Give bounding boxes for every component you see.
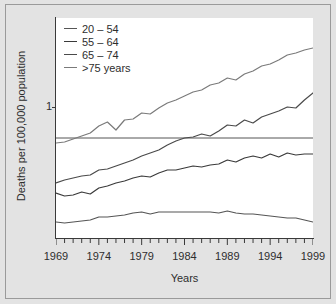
legend-line-icon [64, 28, 77, 29]
legend-label: 55 – 64 [82, 36, 119, 48]
x-tick-label: 1994 [250, 250, 290, 262]
x-axis-ticks [56, 238, 313, 246]
legend-item-20-54: 20 – 54 [64, 22, 131, 35]
legend-label: 20 – 54 [82, 23, 119, 35]
x-tick-label: 1984 [165, 250, 205, 262]
legend: 20 – 54 55 – 64 65 – 74 >75 years [64, 22, 131, 74]
x-axis-title: Years [56, 272, 313, 284]
x-tick-label: 1974 [79, 250, 119, 262]
legend-item-65-74: 65 – 74 [64, 48, 131, 61]
legend-line-icon [64, 41, 77, 42]
x-tick-label: 1999 [293, 250, 333, 262]
y-tick-mark [52, 107, 56, 108]
legend-item-55-64: 55 – 64 [64, 35, 131, 48]
legend-line-icon [64, 54, 77, 55]
x-tick-label: 1989 [207, 250, 247, 262]
legend-label: >75 years [82, 62, 131, 74]
legend-label: 65 – 74 [82, 49, 119, 61]
series-line [56, 153, 313, 196]
legend-line-icon [64, 67, 77, 68]
x-tick-label: 1969 [36, 250, 76, 262]
y-tick-label-1: 1 [38, 100, 52, 112]
y-axis-title: Deaths per 100,000 population [15, 26, 27, 226]
legend-item-over-75: >75 years [64, 61, 131, 74]
x-tick-label: 1979 [122, 250, 162, 262]
series-line [56, 211, 313, 223]
figure-container: 1 Deaths per 100,000 population Years 20… [0, 0, 336, 304]
